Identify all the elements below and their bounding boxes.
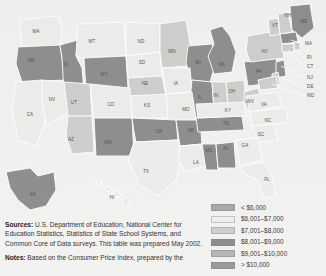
state-label-ia: IA: [174, 81, 179, 86]
state-ut: [64, 82, 92, 116]
leader-line-ct: [288, 50, 305, 67]
state-label-ny: NY: [262, 49, 269, 54]
state-label-wv: WV: [246, 99, 254, 104]
state-hi-island-2: [105, 186, 111, 192]
state-label-sd: SD: [139, 60, 146, 65]
state-label-pa: PA: [256, 69, 263, 74]
state-label-ok: OK: [156, 129, 164, 134]
state-wa: [20, 16, 62, 47]
state-label-ut: UT: [71, 100, 77, 105]
legend-label: > $10,000: [241, 262, 270, 268]
state-label-mo: MO: [182, 107, 190, 112]
state-label-mt: MT: [89, 39, 96, 44]
state-az: [66, 116, 94, 154]
state-label-nv: NV: [49, 97, 56, 102]
state-mt: [76, 22, 126, 58]
state-label-de: DE: [307, 84, 314, 89]
state-label-ar: AR: [188, 128, 195, 133]
state-ny: [246, 30, 284, 62]
sources-text: U.S. Department of Education, National C…: [5, 221, 202, 247]
state-ga: [236, 138, 262, 166]
state-label-vt: VT: [272, 23, 278, 28]
state-label-ms: MS: [205, 148, 212, 153]
state-label-tx: TX: [143, 169, 149, 174]
state-co: [90, 84, 132, 118]
state-label-va: VA: [261, 102, 268, 107]
state-la: [178, 144, 206, 172]
state-nm: [94, 118, 134, 156]
state-label-ca: CA: [27, 112, 34, 117]
state-hi-island-4: [122, 197, 131, 207]
notes-note: Notes: Based on the Consumer Price Index…: [5, 253, 203, 262]
sources-label: Sources:: [5, 221, 33, 228]
state-label-ct: CT: [307, 64, 313, 69]
state-ri: [294, 42, 300, 50]
state-label-ky: KY: [225, 108, 231, 113]
leader-line-de: [277, 76, 305, 87]
map-legend: < $6,000$6,001–$7,000$7,001–$8,000$8,001…: [211, 202, 323, 271]
state-label-hi: HI: [110, 195, 115, 200]
state-label-id: ID: [64, 62, 69, 67]
legend-row: $7,001–$8,000: [211, 225, 323, 237]
state-label-al: AL: [223, 146, 229, 151]
state-label-wi: WI: [195, 60, 201, 65]
state-label-me: ME: [300, 19, 307, 24]
legend-swatch: [211, 216, 235, 223]
figure-notes: Sources: U.S. Department of Education, N…: [5, 220, 203, 262]
state-label-mn: MN: [168, 49, 175, 54]
state-label-ga: GA: [242, 143, 250, 148]
notes-text: Based on the Consumer Price Index, prepa…: [26, 254, 184, 261]
state-label-fl: FL: [264, 177, 270, 182]
state-label-oh: OH: [228, 89, 235, 94]
state-label-or: OR: [27, 58, 35, 63]
state-label-nj: NJ: [307, 75, 313, 80]
legend-label: $6,001–$7,000: [241, 216, 284, 222]
state-label-nc: NC: [265, 118, 272, 123]
state-mo: [166, 92, 196, 122]
state-label-az: AZ: [68, 137, 74, 142]
legend-swatch: [211, 250, 235, 257]
legend-label: $8,001–$9,000: [241, 239, 284, 245]
state-label-tn: TN: [223, 121, 229, 126]
legend-swatch: [211, 262, 235, 269]
state-label-co: CO: [107, 102, 114, 107]
legend-row: $9,001–$10,000: [211, 248, 323, 260]
legend-swatch: [211, 227, 235, 234]
legend-row: $8,001–$9,000: [211, 237, 323, 249]
state-label-sc: SC: [258, 132, 265, 137]
map-figure: WAORIDMTWYNDSDNEMNWIIAILINMIOHMOKSCANVUT…: [0, 0, 326, 276]
legend-row: $6,001–$7,000: [211, 214, 323, 226]
state-label-in: IN: [214, 93, 219, 98]
state-label-ne: NE: [142, 81, 149, 86]
legend-row: > $10,000: [211, 260, 323, 272]
legend-swatch: [211, 204, 235, 211]
state-ky: [196, 102, 246, 118]
state-tx: [128, 140, 182, 196]
state-label-ma: MA: [305, 41, 313, 46]
state-ct: [282, 44, 294, 52]
legend-label: $9,001–$10,000: [241, 251, 287, 257]
state-label-wa: WA: [32, 29, 40, 34]
notes-label: Notes:: [5, 254, 26, 261]
sources-note: Sources: U.S. Department of Education, N…: [5, 220, 203, 248]
state-label-ri: RI: [307, 55, 312, 60]
state-or: [16, 45, 66, 82]
state-label-wy: WY: [100, 72, 108, 77]
legend-label: < $6,000: [241, 205, 266, 211]
state-fl: [240, 162, 276, 198]
choropleth-map: WAORIDMTWYNDSDNEMNWIIAILINMIOHMOKSCANVUT…: [0, 0, 326, 215]
state-label-nh: NH: [285, 13, 292, 18]
legend-row: < $6,000: [211, 202, 323, 214]
state-mn: [160, 20, 190, 68]
state-hi-island-1: [96, 180, 102, 187]
legend-label: $7,001–$8,000: [241, 228, 284, 234]
state-label-ak: AK: [30, 192, 37, 197]
state-ak: [6, 168, 56, 210]
state-nv: [42, 80, 68, 126]
us-map-svg: WAORIDMTWYNDSDNEMNWIIAILINMIOHMOKSCANVUT…: [0, 0, 326, 215]
state-label-la: LA: [193, 160, 200, 165]
state-label-il: IL: [198, 95, 202, 100]
state-label-nd: ND: [138, 39, 145, 44]
state-label-md: MD: [307, 93, 315, 98]
state-label-nm: NM: [104, 140, 111, 145]
